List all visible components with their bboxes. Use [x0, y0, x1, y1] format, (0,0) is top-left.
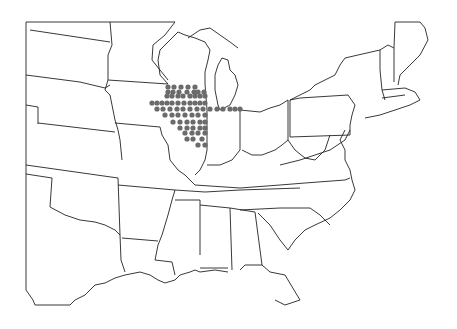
map-point	[195, 130, 200, 135]
map-point	[175, 93, 180, 98]
map-point	[177, 125, 182, 130]
map-point	[214, 106, 219, 111]
map-point	[160, 106, 165, 111]
map-point	[202, 100, 207, 105]
map-point	[184, 136, 189, 141]
map-point	[177, 119, 182, 124]
map-point	[164, 93, 169, 98]
map-point	[175, 100, 180, 105]
map-point	[181, 100, 186, 105]
map-point	[169, 100, 174, 105]
map-point	[202, 125, 207, 130]
map-point	[159, 100, 164, 105]
map-point	[169, 112, 174, 117]
map-point	[187, 93, 192, 98]
map-point	[197, 100, 202, 105]
map-point	[149, 100, 154, 105]
map-point	[182, 112, 187, 117]
map-point	[190, 136, 195, 141]
map-point	[202, 93, 207, 98]
map-point	[180, 93, 185, 98]
map-point	[237, 106, 242, 111]
map-point	[220, 106, 225, 111]
map-point	[189, 130, 194, 135]
us-map	[0, 0, 457, 329]
map-point	[192, 100, 197, 105]
map-point	[192, 84, 197, 89]
map-point	[175, 112, 180, 117]
map-point	[165, 84, 170, 89]
map-point	[200, 106, 205, 111]
map-point	[194, 106, 199, 111]
map-point	[162, 112, 167, 117]
map-point	[232, 106, 237, 111]
map-point	[190, 125, 195, 130]
map-point	[202, 142, 207, 147]
map-point	[197, 93, 202, 98]
map-point	[180, 106, 185, 111]
map-point	[154, 106, 159, 111]
map-point	[202, 119, 207, 124]
map-point	[184, 125, 189, 130]
map-point	[190, 119, 195, 124]
map-point	[169, 93, 174, 98]
map-point	[195, 112, 200, 117]
map-point	[182, 130, 187, 135]
map-point	[197, 119, 202, 124]
map-point	[164, 100, 169, 105]
map-point	[170, 119, 175, 124]
map-point	[171, 84, 176, 89]
map-point	[167, 106, 172, 111]
map-point	[174, 106, 179, 111]
map-point	[185, 84, 190, 89]
map-point	[195, 142, 200, 147]
map-point	[202, 130, 207, 135]
map-point	[189, 112, 194, 117]
map-point	[178, 84, 183, 89]
map-point	[202, 112, 207, 117]
map-point	[154, 100, 159, 105]
map-point	[187, 100, 192, 105]
map-point	[192, 93, 197, 98]
map-point	[184, 119, 189, 124]
map-point	[187, 106, 192, 111]
map-point	[227, 106, 232, 111]
map-point	[197, 125, 202, 130]
map-point	[207, 106, 212, 111]
map-point	[199, 136, 204, 141]
state-borders	[26, 22, 428, 305]
